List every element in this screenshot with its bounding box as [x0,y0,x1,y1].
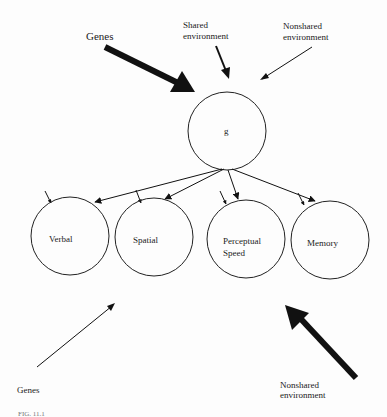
shared-env-label-1: Shared [183,20,208,30]
specific-small-arrows [45,190,304,205]
nonshared-env-label-bottom-2: environment [280,390,326,400]
memory-label: Memory [307,238,338,248]
genes-bottom-thin-arrow [37,303,115,367]
nonshared-bottom-thick-arrow [285,305,356,378]
figure-caption-fragment: FIG. 11.1 [18,410,45,417]
nonshared-env-label-top-1: Nonshared [283,21,322,31]
nonshared-env-to-g-arrow [260,47,312,80]
shared-env-label-2: environment [183,31,229,41]
ability-node-perceptual-speed: Perceptual Speed [207,200,285,278]
perceptual-label-2: Speed [223,248,245,258]
ability-node-spatial: Spatial [115,198,193,276]
g-to-abilities-arrows [95,169,315,202]
path-diagram: Genes Shared environment Nonshared envir… [0,0,387,417]
nonshared-env-label-top-2: environment [283,32,329,42]
perceptual-label-1: Perceptual [223,236,261,246]
ability-node-verbal: Verbal [31,197,109,275]
genes-to-g-thick-arrow [105,47,195,92]
nonshared-env-label-bottom-1: Nonshared [280,380,319,390]
shared-env-to-g-arrow [216,46,230,79]
spatial-label: Spatial [133,235,158,245]
g-factor-node: g [188,92,266,170]
g-label: g [224,126,229,136]
genes-label-bottom: Genes [17,385,40,395]
ability-node-memory: Memory [291,201,369,279]
genes-label-top: Genes [86,30,114,42]
verbal-label: Verbal [49,234,73,244]
diagram-svg: Genes Shared environment Nonshared envir… [0,0,387,417]
